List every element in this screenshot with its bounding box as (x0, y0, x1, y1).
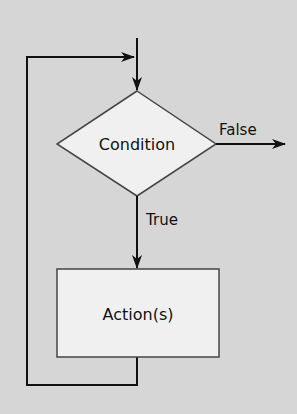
condition-label: Condition (99, 135, 175, 154)
action-label: Action(s) (103, 305, 174, 324)
false-label: False (219, 121, 257, 139)
flowchart-canvas: Condition False True Action(s) (0, 0, 297, 414)
true-label: True (145, 211, 178, 229)
